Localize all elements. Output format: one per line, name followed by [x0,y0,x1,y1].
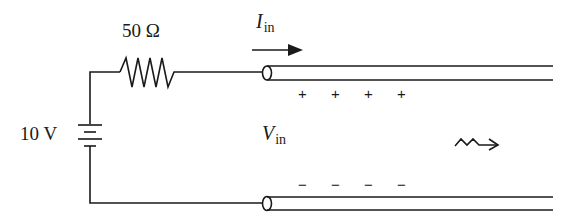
negative-charge: − [397,176,406,193]
coax-bottom-end [263,197,272,211]
positive-charge: + [298,85,307,102]
positive-charge: + [331,85,340,102]
voltage-subscript: in [275,132,286,147]
negative-charge: − [331,176,340,193]
source-voltage-label: 10 V [20,123,57,145]
current-symbol: I [256,10,263,32]
wire-left-bottom [90,146,262,203]
current-subscript: in [264,20,275,35]
wire-left-top [90,72,120,124]
resistor-symbol [120,58,180,87]
voltage-label: Vin [262,122,286,145]
circuit-diagram [0,0,582,223]
current-arrow-head [288,44,303,56]
current-label: Iin [256,10,275,33]
wave-arrow-icon [455,139,498,150]
negative-charge: − [364,176,373,193]
positive-charge: + [364,85,373,102]
voltage-symbol: V [262,122,274,144]
resistor-label: 50 Ω [122,20,160,42]
positive-charge: + [397,85,406,102]
coax-top-end [263,66,272,80]
negative-charge: − [298,176,307,193]
